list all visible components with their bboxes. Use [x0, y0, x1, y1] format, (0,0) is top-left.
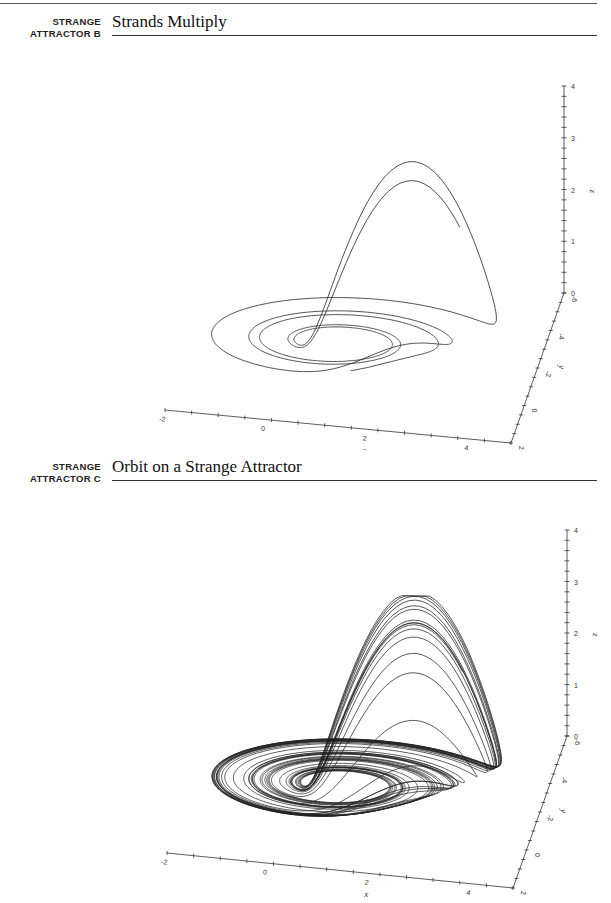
y-axis-label: y [559, 808, 569, 813]
x-tick-label: 2 [364, 879, 369, 886]
z-tick-label: 3 [574, 579, 578, 586]
z-axis-label: z [591, 632, 601, 637]
z-tick-label: 0 [574, 733, 578, 740]
attractor-c-plot: -2024x20-2-4-6y01234z [0, 0, 611, 903]
x-tick-label: -2 [161, 858, 168, 866]
z-tick-label: 1 [574, 682, 578, 689]
x-axis-line [167, 853, 513, 888]
z-tick-label: 2 [574, 630, 578, 637]
y-tick-label: -4 [561, 777, 568, 783]
z-tick-label: 4 [574, 527, 578, 534]
y-tick-label: 2 [520, 891, 527, 895]
x-tick-label: 4 [466, 889, 471, 896]
x-axis-label: x [363, 889, 368, 899]
axes: -2024x20-2-4-6y01234z [161, 527, 601, 899]
attractor-trajectory [212, 596, 502, 817]
y-tick-label: 0 [534, 853, 541, 857]
y-tick-label: -2 [547, 815, 554, 821]
x-tick-label: 0 [263, 868, 268, 875]
